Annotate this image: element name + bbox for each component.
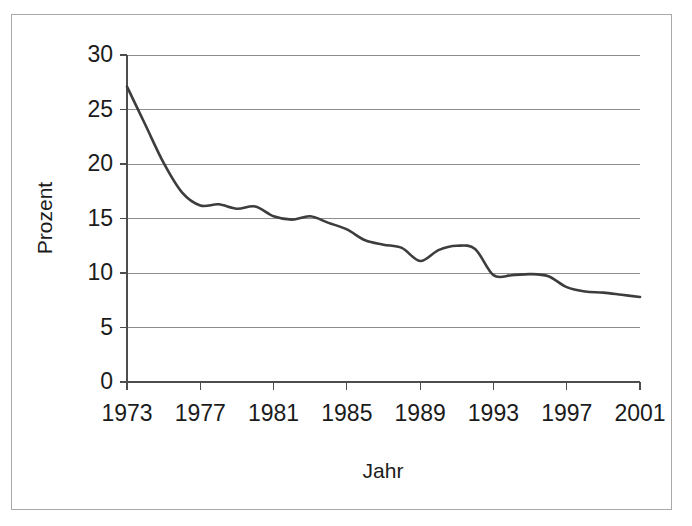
y-tick-label-30: 30 <box>87 41 113 67</box>
x-tick-label-1973: 1973 <box>101 400 152 426</box>
y-tick-label-5: 5 <box>100 314 113 340</box>
y-axis-title: Prozent <box>33 182 56 255</box>
y-tick-labels-group: 051015202530 <box>87 41 113 394</box>
x-tick-labels-group: 19731977198119851989199319972001 <box>101 400 665 426</box>
tick-marks-group <box>120 55 640 390</box>
x-tick-label-1977: 1977 <box>175 400 226 426</box>
figure-root: 051015202530 197319771981198519891993199… <box>0 0 692 526</box>
y-tick-label-0: 0 <box>100 368 113 394</box>
x-tick-label-2001: 2001 <box>614 400 665 426</box>
data-series-line <box>127 87 640 297</box>
x-tick-label-1989: 1989 <box>395 400 446 426</box>
y-tick-label-10: 10 <box>87 259 113 285</box>
x-axis-title: Jahr <box>363 459 404 482</box>
x-tick-label-1997: 1997 <box>541 400 592 426</box>
y-tick-label-20: 20 <box>87 150 113 176</box>
x-tick-label-1985: 1985 <box>321 400 372 426</box>
x-tick-label-1993: 1993 <box>468 400 519 426</box>
x-tick-label-1981: 1981 <box>248 400 299 426</box>
y-tick-label-15: 15 <box>87 205 113 231</box>
line-chart: 051015202530 197319771981198519891993199… <box>0 0 692 526</box>
y-tick-label-25: 25 <box>87 96 113 122</box>
